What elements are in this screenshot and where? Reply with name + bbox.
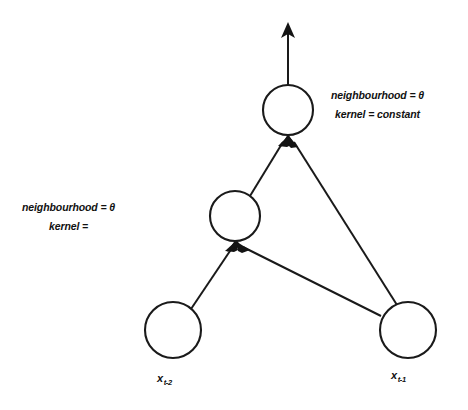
- node-input-right[interactable]: [380, 302, 436, 358]
- edge-inputright-to-output: [288, 136, 397, 305]
- node-output[interactable]: [263, 85, 313, 135]
- edge-line-inputleft-hidden: [191, 248, 232, 309]
- edge-line-hidden-output: [250, 142, 283, 196]
- annotation-hidden-line1: neighbourhood = θ: [22, 198, 115, 217]
- node-label-input-right: xt-1: [391, 369, 405, 381]
- annotation-hidden-line2: kernel =: [22, 217, 115, 236]
- annotation-output-line2: kernel = constant: [331, 105, 424, 124]
- edge-output-to-outside: [281, 22, 295, 85]
- node-hidden[interactable]: [210, 191, 260, 241]
- edge-inputright-to-hidden: [237, 242, 381, 316]
- diagram-canvas: neighbourhood = θ kernel = constant neig…: [0, 0, 468, 410]
- node-label-input-left: xt-2: [157, 372, 171, 384]
- annotation-hidden-node: neighbourhood = θ kernel =: [22, 198, 115, 236]
- edge-inputleft-to-hidden: [191, 241, 238, 309]
- node-label-left-base: x: [157, 372, 163, 384]
- node-label-right-base: x: [391, 369, 397, 381]
- node-label-left-sub: t-2: [164, 378, 172, 387]
- edge-line-inputright-hidden: [243, 247, 381, 316]
- node-input-left[interactable]: [145, 302, 201, 358]
- annotation-output-line1: neighbourhood = θ: [331, 86, 424, 105]
- annotation-output-node: neighbourhood = θ kernel = constant: [331, 86, 424, 124]
- edge-hidden-to-output: [250, 136, 291, 196]
- node-label-right-sub: t-1: [398, 375, 406, 384]
